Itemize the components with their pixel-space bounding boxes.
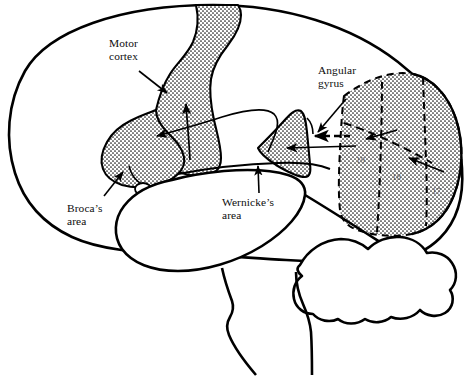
label-brocas-area: Broca’s area <box>67 202 103 227</box>
label-angular-gyrus: Angular gyrus <box>318 64 356 89</box>
leader-wernickes-area <box>258 166 259 193</box>
label-motor-cortex: Motor cortex <box>109 37 138 62</box>
label-wernickes-area: Wernicke’s area <box>222 196 274 221</box>
brain-diagram-svg <box>0 0 473 377</box>
brainstem-anterior <box>222 268 256 375</box>
brodmann-area-18-label: 18 <box>392 172 401 182</box>
brodmann-area-17-label: 17 <box>432 186 441 196</box>
cerebellum <box>293 237 456 324</box>
brodmann-area-19-label: 19 <box>356 155 365 165</box>
brain-language-areas-figure: Motor cortex Broca’s area Wernicke’s are… <box>0 0 473 377</box>
